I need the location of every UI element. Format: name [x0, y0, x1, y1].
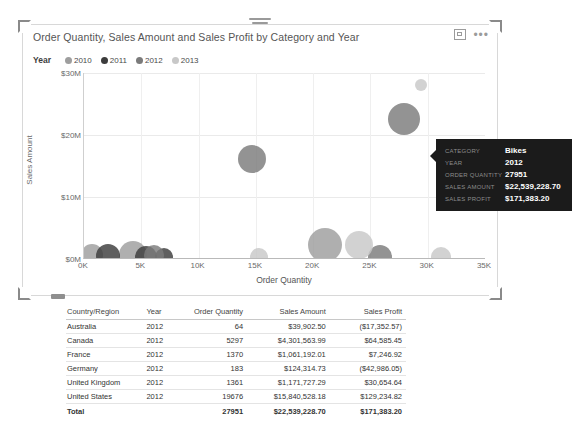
selection-handle-bottom-left[interactable]	[18, 287, 31, 300]
legend-item-label: 2013	[181, 56, 199, 65]
tooltip-value: $171,383.20	[505, 194, 550, 203]
tooltip-row: ORDER QUANTITY27951	[445, 170, 570, 179]
table-cell: 2012	[145, 348, 182, 362]
table-column-header[interactable]: Year	[145, 306, 182, 320]
table-cell: Germany	[66, 362, 145, 376]
table-cell: $39,902.50	[247, 320, 330, 334]
data-bubble-2012[interactable]	[238, 145, 266, 173]
x-axis-ticks: 0K5K10K15K20K25K30K35K	[83, 261, 485, 273]
table-cell: 2012	[145, 362, 182, 376]
tooltip-value: 2012	[505, 158, 523, 167]
table-column-header[interactable]: Country/Region	[66, 306, 145, 320]
tooltip-key: SALES PROFIT	[445, 196, 505, 202]
x-axis-tick-label: 0K	[78, 261, 88, 270]
table-cell: $30,654.64	[330, 376, 406, 390]
table-cell: $129,234.82	[330, 390, 406, 404]
table-cell: $7,246.92	[330, 348, 406, 362]
table-header: Country/RegionYearOrder QuantitySales Am…	[66, 306, 406, 320]
chart-visual-container[interactable]: Order Quantity, Sales Amount and Sales P…	[22, 24, 498, 296]
legend-swatch-icon	[101, 57, 108, 64]
data-table[interactable]: Country/RegionYearOrder QuantitySales Am…	[66, 306, 406, 418]
table-total-cell: Total	[66, 404, 145, 419]
gridline-horizontal	[84, 135, 485, 136]
legend-item-2012[interactable]: 2012	[136, 56, 163, 65]
data-bubble-2011[interactable]	[96, 244, 120, 259]
visual-header: Order Quantity, Sales Amount and Sales P…	[23, 25, 497, 51]
table-cell: $1,061,192.01	[247, 348, 330, 362]
tooltip-key: ORDER QUANTITY	[445, 172, 505, 178]
table-cell: ($17,352.57)	[330, 320, 406, 334]
x-axis-tick-label: 10K	[190, 261, 204, 270]
table-cell: 5297	[182, 334, 247, 348]
chart-legend: Year 2010201120122013	[33, 55, 208, 65]
table-cell: $64,585.45	[330, 334, 406, 348]
table-column-header[interactable]: Sales Amount	[247, 306, 330, 320]
selection-handle-bottom-right[interactable]	[489, 287, 502, 300]
gridline-vertical	[141, 73, 142, 258]
data-bubble-2012[interactable]	[388, 103, 420, 135]
x-axis-tick-label: 15K	[248, 261, 262, 270]
data-bubble-2010[interactable]	[308, 228, 342, 259]
table-row[interactable]: Germany2012183$124,314.73($42,986.05)	[66, 362, 406, 376]
selection-handle-top-left[interactable]	[18, 20, 31, 33]
legend-swatch-icon	[65, 57, 72, 64]
visual-drag-handle[interactable]	[249, 18, 271, 27]
table-cell: France	[66, 348, 145, 362]
table-cell: 2012	[145, 390, 182, 404]
more-options-icon[interactable]: •••	[473, 31, 489, 39]
tooltip-value: $22,539,228.70	[505, 182, 561, 191]
legend-items: 2010201120122013	[65, 56, 208, 65]
gridline-horizontal	[84, 197, 485, 198]
gridline-vertical	[199, 73, 200, 258]
legend-item-2010[interactable]: 2010	[65, 56, 92, 65]
x-axis-tick-label: 25K	[362, 261, 376, 270]
data-bubble-2012[interactable]	[144, 245, 164, 259]
legend-item-2013[interactable]: 2013	[172, 56, 199, 65]
y-axis-ticks: $0M$10M$20M$30M	[37, 73, 83, 259]
table-total-cell: $22,539,228.70	[247, 404, 330, 419]
x-axis-tick-label: 20K	[305, 261, 319, 270]
gridline-vertical	[370, 73, 371, 258]
table-cell: 183	[182, 362, 247, 376]
data-bubble-2013[interactable]	[415, 79, 427, 91]
table-row[interactable]: Canada20125297$4,301,563.99$64,585.45	[66, 334, 406, 348]
y-axis-title: Sales Amount	[25, 135, 34, 184]
data-bubble-2013[interactable]	[345, 231, 373, 259]
y-axis-tick-label: $10M	[61, 193, 81, 202]
table-total-cell	[145, 404, 182, 419]
table-body: Australia201264$39,902.50($17,352.57)Can…	[66, 320, 406, 419]
tooltip-value: Bikes	[505, 146, 526, 155]
table-header-row: Country/RegionYearOrder QuantitySales Am…	[66, 306, 406, 320]
tooltip-key: YEAR	[445, 160, 505, 166]
table-total-row: Total27951$22,539,228.70$171,383.20	[66, 404, 406, 419]
legend-swatch-icon	[136, 57, 143, 64]
data-bubble-2013[interactable]	[250, 248, 268, 259]
x-axis-title: Order Quantity	[83, 275, 485, 285]
table-cell: United States	[66, 390, 145, 404]
data-bubble-2013[interactable]	[431, 247, 451, 259]
legend-item-2011[interactable]: 2011	[101, 56, 127, 65]
table-cell: ($42,986.05)	[330, 362, 406, 376]
y-axis-tick-label: $30M	[61, 69, 81, 78]
table-total-cell: 27951	[182, 404, 247, 419]
page-title: Order Quantity, Sales Amount and Sales P…	[33, 31, 359, 43]
table-row[interactable]: United States201219676$15,840,528.18$129…	[66, 390, 406, 404]
gridline-vertical	[428, 73, 429, 258]
legend-item-label: 2011	[110, 56, 127, 65]
table-column-header[interactable]: Order Quantity	[182, 306, 247, 320]
visual-resize-handle-bottom[interactable]	[51, 294, 65, 299]
selection-handle-top-right[interactable]	[489, 20, 502, 33]
table-row[interactable]: France20121370$1,061,192.01$7,246.92	[66, 348, 406, 362]
table-row[interactable]: Australia201264$39,902.50($17,352.57)	[66, 320, 406, 334]
table-cell: Canada	[66, 334, 145, 348]
focus-mode-icon[interactable]	[454, 29, 466, 40]
table-column-header[interactable]: Sales Profit	[330, 306, 406, 320]
scatter-plot-area[interactable]	[83, 73, 485, 259]
x-axis-tick-label: 35K	[477, 261, 491, 270]
x-axis-tick-label: 5K	[135, 261, 145, 270]
table-total-cell: $171,383.20	[330, 404, 406, 419]
table-row[interactable]: United Kingdom20121361$1,171,727.29$30,6…	[66, 376, 406, 390]
legend-item-label: 2012	[145, 56, 163, 65]
table-cell: 1370	[182, 348, 247, 362]
x-axis-tick-label: 30K	[420, 261, 434, 270]
